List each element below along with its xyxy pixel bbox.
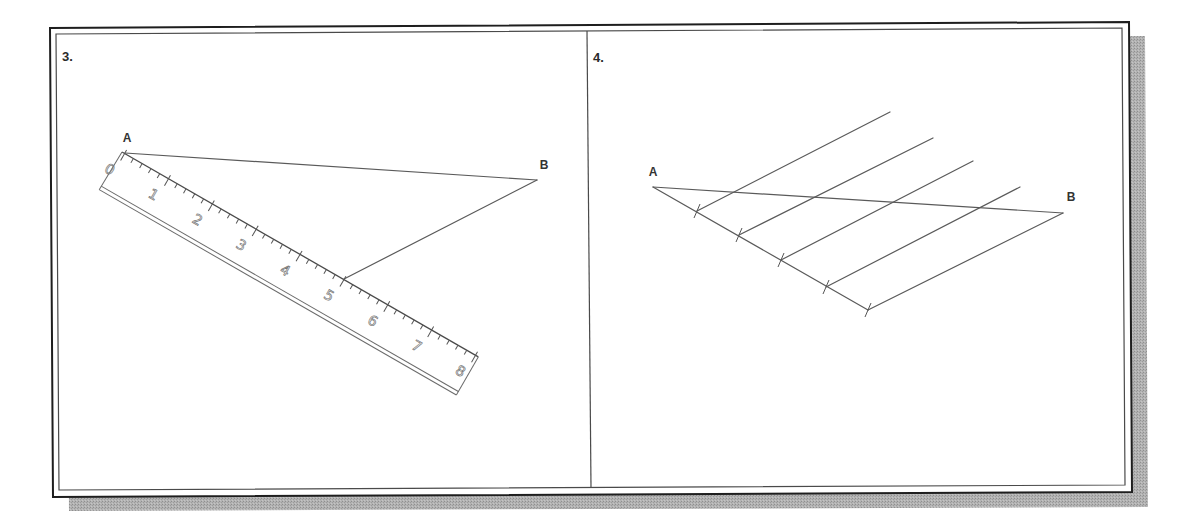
point-a-label: A — [649, 165, 658, 179]
point-b-label: B — [1067, 190, 1076, 204]
point-a-label: A — [123, 131, 132, 145]
panel-3-label: 3. — [62, 49, 73, 64]
panel-4-label: 4. — [593, 50, 604, 65]
point-b-label: B — [540, 158, 549, 172]
figure-canvas: 3. A B 0 1 2 3 4 5 6 7 8 — [0, 0, 1185, 518]
